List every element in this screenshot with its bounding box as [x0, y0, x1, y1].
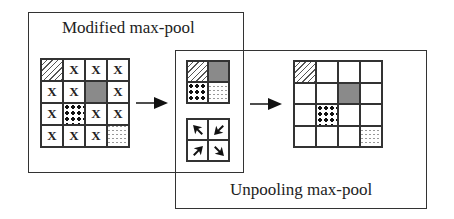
right-arrow-icon: [136, 96, 170, 110]
unpooling-max-pool-title: Unpooling max-pool: [230, 180, 372, 200]
input-grid: XXXXXXXXXXXX: [40, 58, 130, 148]
discarded-cell: X: [63, 59, 85, 81]
arrow-down-left-icon: [208, 119, 229, 140]
max-value-cell-dash: [107, 125, 129, 147]
max-value-cell-gray: [208, 61, 229, 82]
max-value-cell-hatch: [294, 61, 316, 83]
arrow-up-right-icon: [187, 140, 208, 161]
empty-cell: [338, 61, 360, 83]
max-value-cell-hatch: [187, 61, 208, 82]
discarded-cell: X: [41, 103, 63, 125]
discarded-cell: X: [63, 125, 85, 147]
empty-cell: [294, 126, 316, 148]
max-value-cell-dash: [208, 82, 229, 103]
empty-cell: [338, 104, 360, 126]
empty-cell: [360, 83, 382, 105]
discarded-cell: X: [63, 81, 85, 103]
output-grid: [293, 60, 383, 148]
max-value-cell-dots: [63, 103, 85, 125]
max-value-cell-gray: [85, 81, 107, 103]
right-arrow-icon: [250, 97, 284, 111]
max-value-cell-gray: [338, 83, 360, 105]
arrow-down-right-icon: [208, 140, 229, 161]
discarded-cell: X: [85, 103, 107, 125]
discarded-cell: X: [107, 103, 129, 125]
max-value-cell-dots: [187, 82, 208, 103]
empty-cell: [316, 126, 338, 148]
empty-cell: [294, 104, 316, 126]
empty-cell: [360, 104, 382, 126]
empty-cell: [360, 61, 382, 83]
modified-max-pool-title: Modified max-pool: [62, 18, 195, 38]
empty-cell: [338, 126, 360, 148]
discarded-cell: X: [85, 125, 107, 147]
discarded-cell: X: [41, 125, 63, 147]
max-value-cell-hatch: [41, 59, 63, 81]
empty-cell: [294, 83, 316, 105]
max-value-cell-dash: [360, 126, 382, 148]
empty-cell: [316, 83, 338, 105]
arrow-up-left-icon: [187, 119, 208, 140]
discarded-cell: X: [41, 81, 63, 103]
pooled-grid: [186, 60, 230, 104]
max-value-cell-dots: [316, 104, 338, 126]
switches-grid: [186, 118, 230, 162]
discarded-cell: X: [107, 59, 129, 81]
empty-cell: [316, 61, 338, 83]
discarded-cell: X: [85, 59, 107, 81]
discarded-cell: X: [107, 81, 129, 103]
